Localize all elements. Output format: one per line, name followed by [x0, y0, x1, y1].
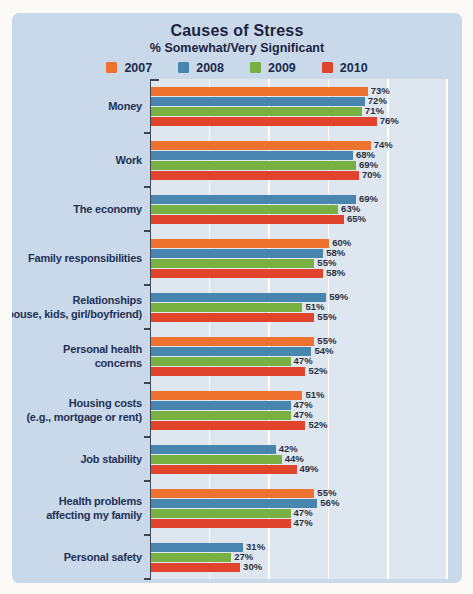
bar-2008 — [151, 249, 323, 258]
bar-row: 27% — [151, 552, 448, 562]
bar-2010 — [151, 269, 323, 278]
category-label-line: Health problems — [59, 494, 142, 508]
bar-value-label: 58% — [326, 268, 345, 278]
bar-2010 — [151, 171, 359, 180]
bar-value-label: 49% — [300, 464, 319, 474]
bar-row: 69% — [151, 194, 448, 204]
category-label-line: concerns — [95, 356, 142, 370]
chart-panel: Causes of Stress % Somewhat/Very Signifi… — [12, 13, 462, 583]
category-bars: 42%44%49% — [150, 437, 448, 481]
category-bars: 31%27%30% — [150, 535, 448, 579]
bar-row: 52% — [151, 420, 448, 430]
bar-2010 — [151, 465, 297, 474]
bar-row: 73% — [151, 86, 448, 96]
bar-row: 74% — [151, 140, 448, 150]
chart-category-row: Personal safety31%27%30% — [12, 535, 462, 579]
bar-row: 55% — [151, 312, 448, 322]
category-bars: 55%54%47%52% — [150, 329, 448, 383]
bar-2008 — [151, 97, 365, 106]
bar-value-label: 59% — [329, 292, 348, 302]
bar-row: 30% — [151, 562, 448, 572]
chart-category-row: The economy69%63%65% — [12, 187, 462, 231]
bar-row: 59% — [151, 292, 448, 302]
category-bars: 73%72%71%76% — [150, 79, 448, 133]
bar-row: 55% — [151, 488, 448, 498]
bar-2009 — [151, 357, 291, 366]
category-bars: 60%58%55%58% — [150, 231, 448, 285]
category-label-line: Family responsibilities — [28, 251, 142, 265]
bar-row: 68% — [151, 150, 448, 160]
chart-category-row: Job stability42%44%49% — [12, 437, 462, 481]
legend-label: 2010 — [340, 61, 368, 75]
chart-category-row: Money73%72%71%76% — [12, 79, 462, 133]
bar-value-label: 69% — [359, 194, 378, 204]
legend-label: 2009 — [268, 61, 296, 75]
bar-2010 — [151, 519, 291, 528]
bar-value-label: 65% — [347, 214, 366, 224]
category-label-line: (e.g., mortgage or rent) — [26, 410, 142, 424]
bar-2008 — [151, 151, 353, 160]
bar-row: 63% — [151, 204, 448, 214]
category-label: Housing costs(e.g., mortgage or rent) — [12, 383, 150, 437]
category-bars: 74%68%69%70% — [150, 133, 448, 187]
bar-value-label: 52% — [308, 420, 327, 430]
category-label: Job stability — [12, 437, 150, 481]
bar-row: 58% — [151, 268, 448, 278]
bar-row: 65% — [151, 214, 448, 224]
category-label: Personal safety — [12, 535, 150, 579]
bar-value-label: 55% — [317, 312, 336, 322]
category-label-line: Housing costs — [69, 396, 142, 410]
category-label: Family responsibilities — [12, 231, 150, 285]
bar-2008 — [151, 293, 326, 302]
bar-value-label: 76% — [380, 116, 399, 126]
category-label-line: The economy — [73, 202, 142, 216]
bar-value-label: 47% — [294, 518, 313, 528]
bar-2010 — [151, 421, 305, 430]
bar-2007 — [151, 489, 314, 498]
legend-item-2010: 2010 — [322, 61, 368, 75]
chart-subtitle: % Somewhat/Very Significant — [12, 41, 462, 55]
bar-2007 — [151, 239, 329, 248]
chart-category-row: Family responsibilities60%58%55%58% — [12, 231, 462, 285]
bar-2007 — [151, 337, 314, 346]
bar-2007 — [151, 391, 302, 400]
bar-2010 — [151, 563, 240, 572]
bar-2007 — [151, 141, 371, 150]
bar-2008 — [151, 195, 356, 204]
bar-2008 — [151, 445, 276, 454]
bar-2008 — [151, 543, 243, 552]
bar-row: 55% — [151, 336, 448, 346]
chart-category-row: Relationships(spouse, kids, girl/boyfrie… — [12, 285, 462, 329]
bar-row: 69% — [151, 160, 448, 170]
category-label: Personal healthconcerns — [12, 329, 150, 383]
bar-row: 70% — [151, 170, 448, 180]
legend-item-2008: 2008 — [178, 61, 224, 75]
category-label: Money — [12, 79, 150, 133]
bar-2008 — [151, 401, 291, 410]
bar-row: 47% — [151, 518, 448, 528]
chart-category-row: Housing costs(e.g., mortgage or rent)51%… — [12, 383, 462, 437]
category-label-line: Job stability — [80, 452, 142, 466]
bar-2010 — [151, 215, 344, 224]
category-bars: 69%63%65% — [150, 187, 448, 231]
bar-2010 — [151, 313, 314, 322]
category-label: Work — [12, 133, 150, 187]
bar-value-label: 30% — [243, 562, 262, 572]
category-bars: 59%51%55% — [150, 285, 448, 329]
bar-row: 47% — [151, 356, 448, 366]
chart-category-row: Personal healthconcerns55%54%47%52% — [12, 329, 462, 383]
bar-row: 55% — [151, 258, 448, 268]
bar-row: 58% — [151, 248, 448, 258]
bar-row: 47% — [151, 410, 448, 420]
bar-2009 — [151, 411, 291, 420]
bar-row: 51% — [151, 302, 448, 312]
bar-row: 76% — [151, 116, 448, 126]
category-label: The economy — [12, 187, 150, 231]
bar-2009 — [151, 553, 231, 562]
bar-2008 — [151, 499, 317, 508]
legend-swatch-icon — [106, 62, 117, 73]
bar-row: 72% — [151, 96, 448, 106]
bar-value-label: 56% — [320, 498, 339, 508]
bar-2009 — [151, 205, 338, 214]
bar-value-label: 52% — [308, 366, 327, 376]
